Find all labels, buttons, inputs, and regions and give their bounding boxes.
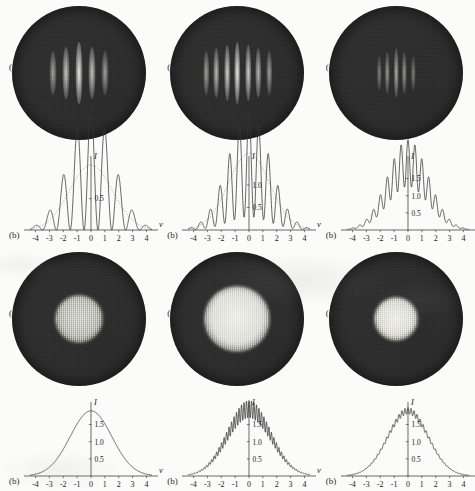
panel-plot-b: (b)0.51.01.5-4-3-2-101234Iv [0,392,158,491]
x-tick-label: 2 [275,479,279,488]
x-tick-label: 0 [247,479,251,488]
panel-image-a: (a) [317,0,475,146]
x-tick-label: -3 [363,479,370,488]
x-tick-label: 2 [117,234,121,243]
y-tick-label: 1.5 [94,420,104,429]
panel-image-a: (a) [0,0,158,146]
panel-plot-b: (b)0.51.0-4-3-2-101234Iv [158,146,316,245]
x-tick-label: -1 [232,234,239,243]
x-tick-label: -1 [390,479,397,488]
x-tick-label: 3 [447,479,451,488]
x-tick-label: -2 [218,479,225,488]
x-tick-label: 3 [131,479,135,488]
x-tick-label: 0 [247,234,251,243]
y-axis-label: I [251,396,256,406]
x-tick-label: -1 [232,479,239,488]
panel-plot-b: (b)0.51.01.5-4-3-2-101234Iv [158,392,316,491]
x-tick-label: -2 [377,234,384,243]
intensity-plot: 0.51.01.5-4-3-2-101234Iv [317,392,475,491]
speckle-disc [170,6,304,140]
x-tick-label: -2 [218,234,225,243]
y-tick-label: 0.5 [253,203,263,212]
intensity-plot: 0.51.01.5-4-3-2-101234Iv [317,146,475,245]
x-tick-label: 2 [433,234,437,243]
disc-vignette [12,6,146,140]
panel-image-a: (a) [158,246,316,392]
x-tick-label: -2 [60,234,67,243]
disc-vignette [170,252,304,386]
y-tick-label: 0.5 [253,454,263,463]
panel-label-a: (a) [167,308,178,318]
disc-vignette [329,252,463,386]
x-tick-label: -4 [32,234,39,243]
y-axis-label: I [93,151,98,161]
x-tick-label: -3 [46,479,53,488]
x-tick-label: 1 [261,234,265,243]
panel-label-a: (a) [326,308,337,318]
y-tick-label: 1.5 [411,420,421,429]
intensity-plot: 0.51.01.5-4-3-2-101234Iv [158,392,316,491]
y-tick-label: 0.5 [411,454,421,463]
y-tick-label: 1.0 [253,437,263,446]
intensity-plot: 0.51.01.5-4-3-2-101234Iv [0,392,158,491]
x-tick-label: 3 [289,479,293,488]
x-tick-label: 3 [447,234,451,243]
panel-label-b: (b) [167,476,178,486]
panel-image-a: (a) [317,246,475,392]
speckle-disc [329,6,463,140]
x-tick-label: -3 [204,234,211,243]
x-tick-label: 2 [433,479,437,488]
intensity-plot: 0.51.0-4-3-2-101234Iv [158,146,316,245]
figure-panel: (a)(b)0.51.01.5-4-3-2-101234Iv [317,0,475,246]
x-tick-label: 4 [303,479,307,488]
x-tick-label: 1 [103,234,107,243]
y-tick-label: 1.0 [411,192,421,201]
x-tick-label: 2 [117,479,121,488]
x-tick-label: 4 [461,234,465,243]
x-tick-label: -2 [377,479,384,488]
y-axis-label: I [410,396,415,406]
panel-label-b: (b) [326,230,337,240]
x-tick-label: 2 [275,234,279,243]
x-tick-label: 1 [261,479,265,488]
figure-panel: (a)(b)0.51.0-4-3-2-101234Iv [158,0,316,246]
speckle-disc [12,6,146,140]
y-tick-label: 1.0 [411,437,421,446]
x-tick-label: -3 [46,234,53,243]
figure-panel: (a)(b)0.51.01.5-4-3-2-101234Iv [0,246,158,491]
x-tick-label: 0 [89,234,93,243]
y-axis-label: I [251,151,256,161]
x-tick-label: 0 [406,479,410,488]
panel-label-b: (b) [9,230,20,240]
x-tick-label: 4 [144,234,148,243]
panel-image-a: (a) [158,0,316,146]
x-tick-label: 1 [420,479,424,488]
panel-grid: (a)(b)0.5-4-3-2-101234Iv(a)(b)0.51.0-4-3… [0,0,475,491]
y-tick-label: 0.5 [411,209,421,218]
speckle-disc [329,252,463,386]
panel-image-a: (a) [0,246,158,392]
speckle-disc [12,252,146,386]
y-axis-label: I [93,396,98,406]
panel-plot-b: (b)0.51.01.5-4-3-2-101234Iv [317,146,475,245]
disc-vignette [12,252,146,386]
x-tick-label: 1 [103,479,107,488]
x-tick-label: 0 [406,234,410,243]
x-tick-label: -3 [204,479,211,488]
x-tick-label: 0 [89,479,93,488]
x-tick-label: -3 [363,234,370,243]
x-tick-label: -4 [349,479,356,488]
figure-panel: (a)(b)0.51.01.5-4-3-2-101234Iv [317,246,475,491]
x-tick-label: -4 [191,234,198,243]
x-tick-label: -2 [60,479,67,488]
disc-vignette [170,6,304,140]
y-tick-label: 1.0 [253,181,263,190]
x-tick-label: -4 [191,479,198,488]
speckle-disc [170,252,304,386]
x-tick-label: -1 [390,234,397,243]
figure-root: (a)(b)0.5-4-3-2-101234Iv(a)(b)0.51.0-4-3… [0,0,475,491]
x-tick-label: 4 [144,479,148,488]
figure-panel: (a)(b)0.51.01.5-4-3-2-101234Iv [158,246,316,491]
x-tick-label: 4 [303,234,307,243]
disc-vignette [329,6,463,140]
